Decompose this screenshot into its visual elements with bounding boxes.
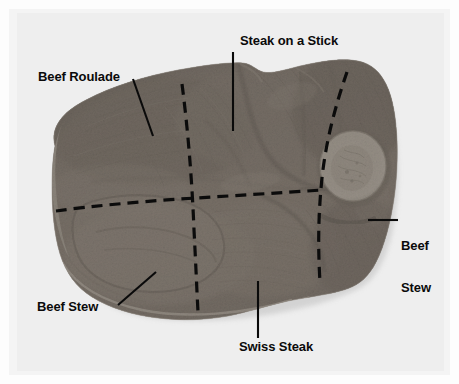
meat-body [40,44,420,340]
figure-page: Steak on a Stick Beef Roulade Beef Stew … [0,0,459,384]
label-beef-stew-right-line2: Stew [401,281,431,295]
meat-photograph [0,0,459,384]
label-beef-stew-right: Beef Stew [401,211,431,323]
label-swiss-steak: Swiss Steak [239,340,313,354]
photo-content [40,44,420,340]
label-beef-stew-right-line1: Beef [401,239,431,253]
label-beef-roulade: Beef Roulade [38,70,120,84]
label-beef-stew-left: Beef Stew [37,300,98,314]
label-steak-on-a-stick: Steak on a Stick [240,34,338,48]
